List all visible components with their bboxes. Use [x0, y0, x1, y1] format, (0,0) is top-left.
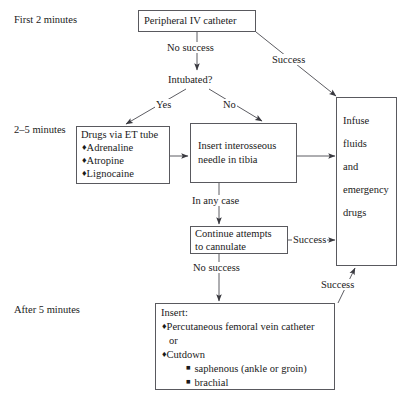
insert-box-item-or: or [169, 335, 178, 346]
node-continue-attempts-to-cannulate: Continue attempts to cannulate [190, 226, 288, 254]
insert-box-item-saphenous: ■saphenous (ankle or groin) [186, 363, 307, 374]
drugs-box-item-lignocaine-label: Lignocaine [87, 168, 134, 179]
node-peripheral-iv-catheter: Peripheral IV catheter [138, 10, 256, 32]
drugs-box-item-adrenaline: ♦Adrenaline [82, 142, 133, 153]
interosseous-line-1: Insert interosseous [198, 140, 276, 151]
interosseous-line-2: needle in tibia [198, 154, 257, 165]
insert-box-item-percutaneous-label: Percutaneous femoral vein catheter [167, 321, 315, 332]
infuse-line-4: emergency [343, 184, 389, 195]
continue-line-2: to cannulate [195, 241, 246, 252]
node-intubated-decision: Intubated? [168, 74, 212, 86]
drugs-box-item-atropine-label: Atropine [87, 155, 124, 166]
edge-label-success-top-right: Success [271, 54, 306, 65]
flowchart-diagram: First 2 minutes 2–5 minutes After 5 minu… [0, 0, 407, 402]
drugs-box-heading: Drugs via ET tube [81, 129, 158, 140]
edge-label-no-success-top: No success [166, 42, 215, 53]
stage-label-first-2-minutes: First 2 minutes [14, 14, 77, 25]
insert-box-item-brachial-label: brachial [191, 377, 229, 388]
edge-label-success-middle-right: Success [292, 234, 327, 245]
node-infuse-fluids-and-emergency-drugs: Infuse fluids and emergency drugs [336, 97, 397, 266]
insert-box-item-cutdown-label: Cutdown [167, 349, 206, 360]
drugs-box-item-atropine: ♦Atropine [82, 155, 124, 166]
infuse-line-2: fluids [343, 138, 367, 149]
edge-label-in-any-case: In any case [191, 195, 240, 206]
edge-label-no-success-bottom: No success [192, 262, 241, 273]
insert-box-item-brachial: ■brachial [186, 377, 228, 388]
edge-label-no: No [222, 99, 237, 110]
insert-box-item-percutaneous: ♦Percutaneous femoral vein catheter [162, 321, 314, 332]
node-peripheral-iv-catheter-label: Peripheral IV catheter [144, 15, 237, 26]
continue-line-1: Continue attempts [195, 228, 272, 239]
square-bullet-icon: ■ [186, 377, 191, 386]
stage-label-after-5-minutes: After 5 minutes [14, 304, 80, 315]
node-insert-interosseous-needle: Insert interosseous needle in tibia [190, 123, 297, 183]
node-insert-femoral-or-cutdown: Insert: ♦Percutaneous femoral vein cathe… [155, 303, 335, 390]
stage-label-2-5-minutes: 2–5 minutes [14, 124, 66, 135]
node-drugs-via-et-tube: Drugs via ET tube ♦Adrenaline ♦Atropine … [76, 126, 170, 184]
infuse-line-1: Infuse [343, 115, 369, 126]
infuse-line-5: drugs [343, 207, 366, 218]
edge-label-success-bottom-right: Success [320, 279, 355, 290]
edge-label-yes: Yes [155, 99, 172, 110]
insert-box-heading: Insert: [161, 307, 188, 318]
drugs-box-item-lignocaine: ♦Lignocaine [82, 168, 134, 179]
insert-box-item-saphenous-label: saphenous (ankle or groin) [191, 363, 307, 374]
insert-box-item-cutdown: ♦Cutdown [162, 349, 205, 360]
drugs-box-item-adrenaline-label: Adrenaline [87, 142, 134, 153]
infuse-line-3: and [343, 161, 358, 172]
square-bullet-icon: ■ [186, 363, 191, 372]
